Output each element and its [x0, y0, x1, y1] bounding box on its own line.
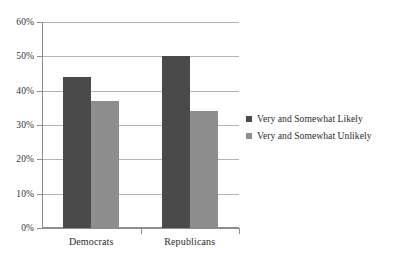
legend-swatch-icon [246, 133, 252, 139]
x-axis-category-label: Republicans [140, 236, 240, 248]
x-axis-tick-mark [141, 229, 142, 234]
y-axis-tick-label: 10% [1, 189, 34, 199]
legend-item: Very and Somewhat Unlikely [246, 129, 392, 142]
legend: Very and Somewhat LikelyVery and Somewha… [246, 112, 392, 146]
legend-label: Very and Somewhat Likely [257, 112, 363, 125]
bar [63, 77, 91, 228]
y-axis-tick-label: 40% [1, 86, 34, 96]
bar [162, 56, 190, 228]
x-axis-category-label: Democrats [41, 236, 141, 248]
legend-label: Very and Somewhat Unlikely [257, 129, 372, 142]
y-axis-tick-label: 60% [1, 17, 34, 27]
bar [190, 111, 218, 228]
x-axis-tick-mark [239, 229, 240, 234]
bar-chart: 0%10%20%30%40%50%60% DemocratsRepublican… [0, 0, 395, 261]
y-axis-line [42, 22, 43, 229]
gridline [42, 56, 239, 57]
y-axis-tick-label: 20% [1, 154, 34, 164]
y-axis-tick-label: 0% [1, 223, 34, 233]
gridline [42, 22, 239, 23]
y-axis-tick-label: 30% [1, 120, 34, 130]
legend-item: Very and Somewhat Likely [246, 112, 392, 125]
y-axis-tick-label: 50% [1, 51, 34, 61]
bar [91, 101, 119, 228]
plot-area [42, 22, 239, 228]
legend-swatch-icon [246, 116, 252, 122]
